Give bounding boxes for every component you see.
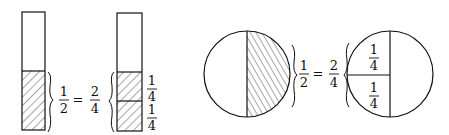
- equals-sign: =: [73, 92, 84, 107]
- svg-text:4: 4: [148, 118, 156, 133]
- circle-half: [204, 31, 290, 117]
- svg-text:1: 1: [60, 84, 68, 99]
- fraction-quarter-upper-bar: 1 4: [147, 73, 157, 104]
- svg-text:2: 2: [300, 75, 308, 90]
- svg-text:1: 1: [148, 102, 156, 117]
- fraction-diagram: 1 2 = 2 4 1 4 1 4 1 2 = 2 4: [0, 0, 449, 135]
- svg-text:2: 2: [330, 58, 338, 73]
- bar-half: [22, 12, 45, 130]
- bar-two-fourths: [117, 13, 142, 131]
- svg-text:2: 2: [91, 84, 99, 99]
- svg-text:4: 4: [370, 96, 378, 111]
- fraction-two-fourths-bar: 2 4: [90, 84, 100, 116]
- equals-sign: =: [313, 66, 324, 81]
- brace-icon: [292, 45, 297, 107]
- svg-text:4: 4: [91, 101, 99, 116]
- fraction-quarter-upper-circle: 1 4: [369, 42, 379, 73]
- fraction-quarter-lower-bar: 1 4: [147, 102, 157, 133]
- svg-text:4: 4: [370, 58, 378, 73]
- svg-text:2: 2: [60, 101, 68, 116]
- svg-text:4: 4: [330, 75, 338, 90]
- circle-two-fourths: [347, 31, 433, 117]
- brace-icon: [48, 72, 53, 132]
- fraction-one-half-bar: 1 2: [59, 84, 69, 116]
- brace-icon: [109, 72, 114, 132]
- fraction-one-half-circle: 1 2: [299, 58, 309, 90]
- fraction-two-fourths-circle: 2 4: [329, 58, 339, 90]
- svg-text:1: 1: [370, 42, 378, 57]
- svg-text:1: 1: [370, 80, 378, 95]
- svg-text:1: 1: [148, 73, 156, 88]
- svg-text:1: 1: [300, 58, 308, 73]
- fraction-quarter-lower-circle: 1 4: [369, 80, 379, 111]
